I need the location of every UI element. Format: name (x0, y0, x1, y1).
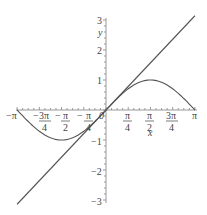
y-tick-label-minus-2: −2 (91, 166, 102, 177)
x-tick-label-minus-pi-2: −π 2 (55, 110, 70, 133)
y-tick-label-3: 3 (97, 15, 102, 26)
svg-text:π: π (192, 110, 197, 121)
svg-text:π: π (125, 110, 130, 121)
x-tick-label-minus-pi: −π (6, 110, 17, 121)
svg-text:4: 4 (42, 122, 47, 133)
function-plot: y x 3 2 1 −1 −2 −3 0 −π −3π 4 −π 2 −π 4 … (0, 0, 207, 215)
svg-text:4: 4 (86, 122, 91, 133)
svg-text:π: π (147, 110, 152, 121)
svg-text:−: − (77, 110, 83, 121)
svg-text:3π: 3π (39, 110, 49, 121)
svg-text:π: π (63, 110, 68, 121)
svg-text:4: 4 (169, 122, 174, 133)
y-tick-label-1: 1 (97, 75, 102, 86)
x-tick-label-3pi-4: 3π 4 (166, 110, 178, 133)
x-tick-label-minus-pi-4: −π 4 (77, 110, 93, 133)
svg-text:−π: −π (6, 110, 17, 121)
svg-text:−: − (55, 110, 61, 121)
svg-text:π: π (86, 110, 91, 121)
y-tick-label-minus-3: −3 (91, 196, 102, 207)
x-tick-label-pi: π (192, 110, 197, 121)
svg-text:2: 2 (147, 122, 152, 133)
y-tick-label-2: 2 (97, 45, 102, 56)
x-tick-label-pi-2: π 2 (145, 110, 154, 133)
y-tick-label-minus-1: −1 (91, 136, 102, 147)
origin-label: 0 (99, 110, 104, 121)
x-tick-label-pi-4: π 4 (123, 110, 132, 133)
svg-text:4: 4 (125, 122, 130, 133)
y-axis-label: y (97, 27, 103, 38)
x-tick-label-minus-3pi-4: −3π 4 (33, 110, 51, 133)
svg-text:2: 2 (63, 122, 68, 133)
svg-text:3π: 3π (166, 110, 176, 121)
